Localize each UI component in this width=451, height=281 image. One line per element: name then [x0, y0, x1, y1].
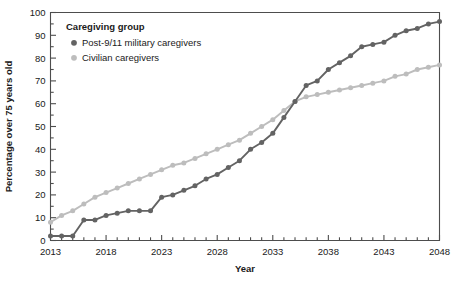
y-axis-tick-label: 40: [35, 144, 46, 155]
x-axis-tick-label: 2023: [151, 246, 172, 257]
x-axis-tick-label: 2048: [429, 246, 450, 257]
series-marker-civilian: [237, 138, 242, 143]
x-axis-tick-label: 2038: [318, 246, 339, 257]
x-axis-tick-label: 2018: [96, 246, 117, 257]
series-marker-civilian: [204, 151, 209, 156]
series-marker-military: [370, 42, 375, 47]
series-marker-civilian: [92, 195, 97, 200]
series-marker-military: [48, 233, 53, 238]
y-axis-tick-label: 0: [40, 235, 45, 246]
legend-title: Caregiving group: [66, 21, 145, 32]
series-marker-military: [270, 131, 275, 136]
series-marker-civilian: [359, 83, 364, 88]
series-marker-military: [148, 208, 153, 213]
x-axis-tick-label: 2013: [40, 246, 61, 257]
series-marker-civilian: [381, 78, 386, 83]
series-marker-civilian: [370, 81, 375, 86]
series-marker-military: [59, 233, 64, 238]
series-marker-military: [92, 217, 97, 222]
series-marker-military: [226, 165, 231, 170]
series-marker-military: [359, 44, 364, 49]
y-axis-title: Percentage over 75 years old: [3, 61, 14, 193]
series-marker-military: [293, 99, 298, 104]
series-marker-civilian: [181, 160, 186, 165]
y-axis-tick-label: 80: [35, 53, 46, 64]
series-marker-military: [104, 213, 109, 218]
series-marker-civilian: [48, 220, 53, 225]
y-axis-tick-label: 70: [35, 75, 46, 86]
x-axis-tick-label: 2033: [262, 246, 283, 257]
series-marker-military: [204, 176, 209, 181]
y-axis-tick-label: 20: [35, 189, 46, 200]
series-marker-military: [237, 158, 242, 163]
series-marker-civilian: [426, 65, 431, 70]
x-axis-tick-label: 2043: [373, 246, 394, 257]
series-marker-civilian: [393, 74, 398, 79]
x-axis-title: Year: [235, 263, 255, 274]
series-marker-military: [348, 53, 353, 58]
series-marker-civilian: [59, 213, 64, 218]
legend-marker-military: [71, 40, 77, 46]
legend-label-military: Post-9/11 military caregivers: [82, 37, 201, 48]
series-marker-civilian: [70, 208, 75, 213]
series-marker-civilian: [304, 94, 309, 99]
series-marker-civilian: [192, 156, 197, 161]
series-marker-military: [248, 147, 253, 152]
y-axis-tick-label: 100: [30, 7, 46, 18]
series-marker-civilian: [281, 108, 286, 113]
series-marker-civilian: [137, 176, 142, 181]
series-marker-civilian: [437, 62, 442, 67]
series-marker-civilian: [148, 172, 153, 177]
line-chart-canvas: 0102030405060708090100201320182023202820…: [0, 0, 451, 281]
series-marker-civilian: [259, 124, 264, 129]
series-marker-military: [326, 67, 331, 72]
series-marker-civilian: [270, 117, 275, 122]
y-axis-tick-label: 30: [35, 167, 46, 178]
series-marker-civilian: [404, 72, 409, 77]
series-marker-military: [215, 172, 220, 177]
series-marker-civilian: [115, 186, 120, 191]
series-marker-civilian: [215, 147, 220, 152]
series-marker-civilian: [170, 163, 175, 168]
series-marker-military: [381, 40, 386, 45]
series-marker-military: [315, 78, 320, 83]
y-axis-tick-label: 90: [35, 30, 46, 41]
series-marker-civilian: [248, 131, 253, 136]
series-marker-civilian: [226, 142, 231, 147]
y-axis-tick-label: 60: [35, 98, 46, 109]
x-axis-tick-label: 2028: [207, 246, 228, 257]
series-marker-military: [337, 60, 342, 65]
series-marker-civilian: [415, 67, 420, 72]
y-axis-tick-label: 10: [35, 212, 46, 223]
series-marker-military: [126, 208, 131, 213]
series-marker-civilian: [348, 85, 353, 90]
series-marker-military: [415, 26, 420, 31]
series-marker-military: [192, 183, 197, 188]
series-marker-military: [426, 21, 431, 26]
series-marker-military: [393, 33, 398, 38]
legend-label-civilian: Civilian caregivers: [82, 52, 159, 63]
series-marker-military: [115, 211, 120, 216]
series-marker-civilian: [315, 92, 320, 97]
series-marker-military: [70, 233, 75, 238]
series-marker-military: [81, 217, 86, 222]
y-axis-tick-label: 50: [35, 121, 46, 132]
series-marker-military: [437, 19, 442, 24]
series-marker-civilian: [104, 190, 109, 195]
series-marker-military: [159, 195, 164, 200]
series-marker-military: [259, 140, 264, 145]
series-marker-military: [170, 192, 175, 197]
series-marker-civilian: [337, 88, 342, 93]
series-marker-military: [404, 28, 409, 33]
series-marker-military: [137, 208, 142, 213]
series-marker-civilian: [326, 90, 331, 95]
series-marker-civilian: [126, 181, 131, 186]
series-marker-military: [281, 115, 286, 120]
legend-marker-civilian: [71, 55, 77, 61]
series-marker-civilian: [81, 202, 86, 207]
series-line-civilian: [51, 65, 440, 222]
series-marker-military: [304, 83, 309, 88]
series-marker-military: [181, 188, 186, 193]
series-marker-civilian: [159, 167, 164, 172]
chart-figure: 0102030405060708090100201320182023202820…: [0, 0, 451, 281]
